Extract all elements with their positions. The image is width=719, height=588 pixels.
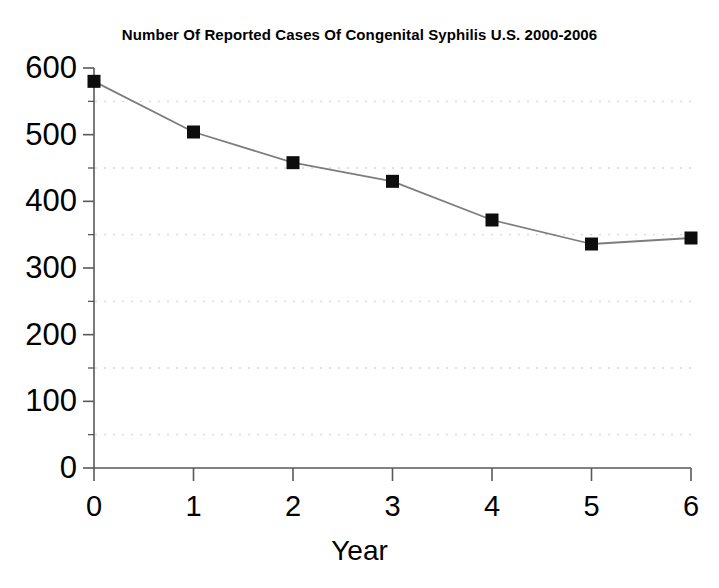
x-axis-tick-label: 2 [263,492,323,521]
tick-marks-group [83,68,691,481]
data-point-marker [88,75,101,88]
y-axis-tick-label: 400 [25,185,77,216]
y-axis-tick-label: 300 [25,252,77,283]
data-point-marker [685,232,698,245]
x-axis-tick-label: 3 [363,492,423,521]
data-point-marker [386,175,399,188]
x-axis-tick-label: 6 [661,492,719,521]
chart-container: Number Of Reported Cases Of Congenital S… [0,0,719,588]
x-axis-tick-label: 1 [164,492,224,521]
x-axis-tick-label: 0 [64,492,124,521]
y-axis-tick-label: 200 [25,319,77,350]
gridlines-group [95,101,691,434]
data-point-marker [585,238,598,251]
axes-group [94,68,691,468]
x-axis-title: Year [0,537,719,565]
y-axis-tick-label: 600 [25,52,77,83]
series-line [94,81,691,244]
x-axis-tick-label: 4 [462,492,522,521]
y-axis-tick-label: 100 [25,385,77,416]
data-point-marker [486,214,499,227]
y-axis-tick-label: 0 [60,452,77,483]
data-point-marker [187,126,200,139]
data-line [94,81,691,244]
y-axis-tick-label: 500 [25,119,77,150]
x-axis-tick-label: 5 [562,492,622,521]
data-point-marker [287,156,300,169]
